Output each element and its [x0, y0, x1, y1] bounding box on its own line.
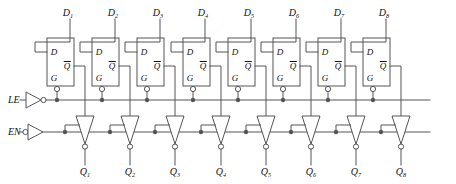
input-label-d4: D4 — [198, 8, 208, 18]
g-input-bubble — [99, 86, 104, 91]
qbar-output-wire — [164, 66, 175, 116]
latch-port-g: G — [322, 74, 329, 83]
latch-port-qbar: Q — [64, 61, 71, 71]
input-label-d6: D6 — [289, 8, 299, 18]
latch-port-d: D — [232, 48, 239, 57]
en-inverter-body — [28, 124, 43, 140]
buffer-enable-wire — [291, 125, 306, 132]
output-label-q1: Q1 — [80, 167, 90, 177]
latch-port-qbar: Q — [335, 61, 342, 71]
le-bus-junction — [371, 98, 375, 102]
buffer-output-bubble — [353, 144, 358, 149]
circuit-diagram: D1D2D3D4D5D6D7D8Q1Q2Q3Q4Q5Q6Q7Q8LEENDGQD… — [0, 0, 456, 184]
qbar-output-wire — [390, 66, 401, 116]
le-inverter-output-bubble — [41, 97, 46, 102]
control-label-le: LE — [8, 95, 20, 105]
le-bus-junction — [145, 98, 149, 102]
tristate-buffer-body — [121, 116, 139, 144]
input-label-d7: D7 — [334, 8, 344, 18]
qbar-output-wire — [345, 66, 356, 116]
latch-port-qbar: Q — [380, 61, 387, 71]
latch-port-d: D — [187, 48, 194, 57]
buffer-output-bubble — [308, 144, 313, 149]
tristate-buffer-body — [392, 116, 410, 144]
schematic-canvas — [0, 0, 456, 184]
output-label-q7: Q7 — [351, 167, 361, 177]
latch-port-d: D — [277, 48, 284, 57]
latch-port-d: D — [96, 48, 103, 57]
latch-port-d: D — [367, 48, 374, 57]
buffer-enable-wire — [381, 125, 396, 132]
latch-port-d: D — [322, 48, 329, 57]
g-input-bubble — [190, 86, 195, 91]
latch-port-g: G — [367, 74, 374, 83]
qbar-output-wire — [255, 66, 266, 116]
en-input-bubble — [23, 129, 28, 134]
tristate-buffer-body — [76, 116, 94, 144]
latch-port-qbar: Q — [200, 61, 207, 71]
input-label-d2: D2 — [108, 8, 118, 18]
output-label-q3: Q3 — [170, 167, 180, 177]
latch-port-g: G — [187, 74, 194, 83]
tristate-buffer-body — [212, 116, 230, 144]
qbar-output-wire — [300, 66, 311, 116]
latch-port-qbar: Q — [290, 61, 297, 71]
le-bus-junction — [236, 98, 240, 102]
le-bus-junction — [100, 98, 104, 102]
buffer-enable-wire — [201, 125, 216, 132]
latch-port-qbar: Q — [154, 61, 161, 71]
tristate-buffer-body — [347, 116, 365, 144]
le-inverter-body — [26, 92, 41, 108]
buffer-enable-wire — [246, 125, 261, 132]
g-input-bubble — [235, 86, 240, 91]
qbar-output-wire — [119, 66, 130, 116]
g-input-bubble — [144, 86, 149, 91]
buffer-output-bubble — [218, 144, 223, 149]
latch-port-d: D — [141, 48, 148, 57]
input-label-d5: D5 — [244, 8, 254, 18]
control-label-en: EN — [8, 127, 21, 137]
latch-port-g: G — [232, 74, 239, 83]
buffer-enable-wire — [110, 125, 125, 132]
buffer-output-bubble — [172, 144, 177, 149]
latch-port-g: G — [51, 74, 58, 83]
output-label-q2: Q2 — [125, 167, 135, 177]
g-input-bubble — [54, 86, 59, 91]
buffer-enable-wire — [65, 125, 80, 132]
output-label-q6: Q6 — [306, 167, 316, 177]
g-input-bubble — [280, 86, 285, 91]
tristate-buffer-body — [257, 116, 275, 144]
le-bus-junction — [326, 98, 330, 102]
buffer-output-bubble — [82, 144, 87, 149]
tristate-buffer-body — [166, 116, 184, 144]
latch-port-qbar: Q — [109, 61, 116, 71]
g-input-bubble — [325, 86, 330, 91]
latch-port-g: G — [96, 74, 103, 83]
qbar-output-wire — [74, 66, 85, 116]
latch-port-qbar: Q — [245, 61, 252, 71]
input-label-d8: D8 — [379, 8, 389, 18]
output-label-q8: Q8 — [396, 167, 406, 177]
latch-port-g: G — [141, 74, 148, 83]
qbar-output-wire — [210, 66, 221, 116]
le-bus-junction — [191, 98, 195, 102]
input-label-d3: D3 — [153, 8, 163, 18]
le-bus-junction — [281, 98, 285, 102]
buffer-output-bubble — [398, 144, 403, 149]
latch-port-d: D — [51, 48, 58, 57]
buffer-enable-wire — [336, 125, 351, 132]
output-label-q5: Q5 — [261, 167, 271, 177]
latch-port-g: G — [277, 74, 284, 83]
le-bus-junction — [55, 98, 59, 102]
g-input-bubble — [370, 86, 375, 91]
buffer-output-bubble — [263, 144, 268, 149]
buffer-enable-wire — [155, 125, 170, 132]
tristate-buffer-body — [302, 116, 320, 144]
input-label-d1: D1 — [63, 8, 73, 18]
output-label-q4: Q4 — [216, 167, 226, 177]
buffer-output-bubble — [127, 144, 132, 149]
